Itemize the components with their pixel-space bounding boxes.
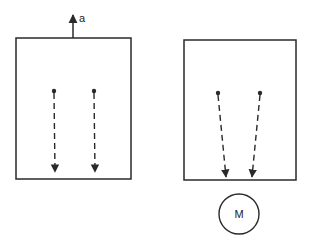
- particle-dot: [92, 89, 96, 93]
- box-near-mass: [184, 40, 296, 180]
- particle-trajectory-arrow: [54, 93, 55, 172]
- acceleration-label: a: [79, 12, 86, 24]
- diagram-canvas: a M: [0, 0, 311, 247]
- particle-trajectory-arrow: [94, 93, 95, 172]
- accelerating-box: [16, 38, 131, 179]
- left-panel: a: [16, 12, 131, 179]
- particle-trajectory-arrow: [218, 95, 226, 177]
- particle-dot: [258, 91, 262, 95]
- particle-dot: [216, 91, 220, 95]
- mass-label: M: [234, 208, 243, 220]
- right-panel: M: [184, 40, 296, 234]
- particle-dot: [52, 89, 56, 93]
- particle-trajectory-arrow: [252, 95, 260, 177]
